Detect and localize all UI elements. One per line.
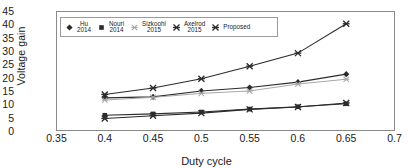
data-point-marker [343, 21, 350, 27]
data-point-marker [212, 24, 219, 30]
data-point-marker [66, 24, 72, 30]
legend-label: Sizkoohi2015 [142, 21, 166, 34]
legend-item-hu[interactable]: Hu2014 [64, 21, 91, 34]
legend-item-axelrod[interactable]: Axelrod2015 [171, 21, 205, 34]
legend-item-proposed[interactable]: Proposed [210, 22, 250, 33]
legend-label: Nouri2014 [109, 21, 124, 34]
data-point-marker [247, 84, 253, 90]
series-nouri [102, 101, 348, 117]
chart-legend: Hu2014Nouri2014Sizkoohi2015Axelrod2015Pr… [60, 17, 278, 37]
data-point-marker [294, 50, 301, 56]
legend-item-sizkoohi[interactable]: Sizkoohi2015 [129, 21, 166, 34]
legend-marker-icon [129, 22, 140, 33]
legend-label: Hu2014 [77, 21, 91, 34]
data-point-marker [198, 76, 205, 82]
legend-label: Axelrod2015 [184, 21, 205, 34]
data-point-marker [99, 25, 104, 30]
legend-year: 2014 [77, 27, 91, 33]
data-point-marker [150, 85, 157, 91]
legend-marker-icon [171, 22, 182, 33]
series-hu [102, 71, 350, 101]
data-point-marker [246, 63, 253, 69]
chart-figure: Voltage gain 051015202530354045 0.350.40… [0, 0, 413, 168]
data-point-marker [173, 24, 180, 30]
legend-marker-icon [210, 22, 221, 33]
legend-item-nouri[interactable]: Nouri2014 [96, 21, 124, 34]
data-point-marker [131, 24, 137, 29]
legend-marker-icon [96, 22, 107, 33]
legend-label: Proposed [223, 24, 250, 30]
x-axis-label: Duty cycle [0, 155, 413, 167]
legend-year: 2015 [184, 27, 205, 33]
data-point-marker [343, 77, 349, 82]
series-axelrod [101, 100, 349, 121]
legend-marker-icon [64, 22, 75, 33]
legend-year: 2015 [142, 27, 166, 33]
legend-year: 2014 [109, 27, 124, 33]
